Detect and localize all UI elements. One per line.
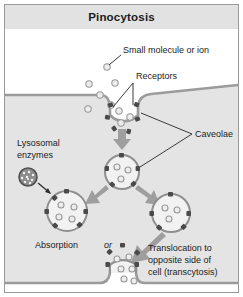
label-translocation-line1: Translocation to	[148, 243, 212, 253]
lysosome	[19, 168, 37, 186]
page-title: Pinocytosis	[88, 11, 155, 23]
leader-small-molecule	[109, 55, 121, 65]
label-or: or	[104, 240, 113, 250]
label-lysosomal-enzymes-line1: Lysosomal	[17, 138, 60, 148]
label-translocation-line3: cell (transcytosis)	[148, 267, 218, 277]
label-caveolae: Caveolae	[195, 129, 233, 139]
figure-title-bar: Pinocytosis	[5, 5, 238, 29]
label-small-molecule: Small molecule or ion	[123, 45, 209, 55]
label-absorption: Absorption	[35, 240, 78, 250]
pinocytosis-figure: Pinocytosis	[0, 0, 243, 297]
label-translocation-line2: opposite side of	[148, 255, 212, 265]
label-receptors: Receptors	[136, 71, 178, 81]
label-lysosomal-enzymes-line2: enzymes	[17, 150, 54, 160]
diagram-canvas: Small molecule or ion Receptors Caveolae…	[5, 29, 238, 292]
